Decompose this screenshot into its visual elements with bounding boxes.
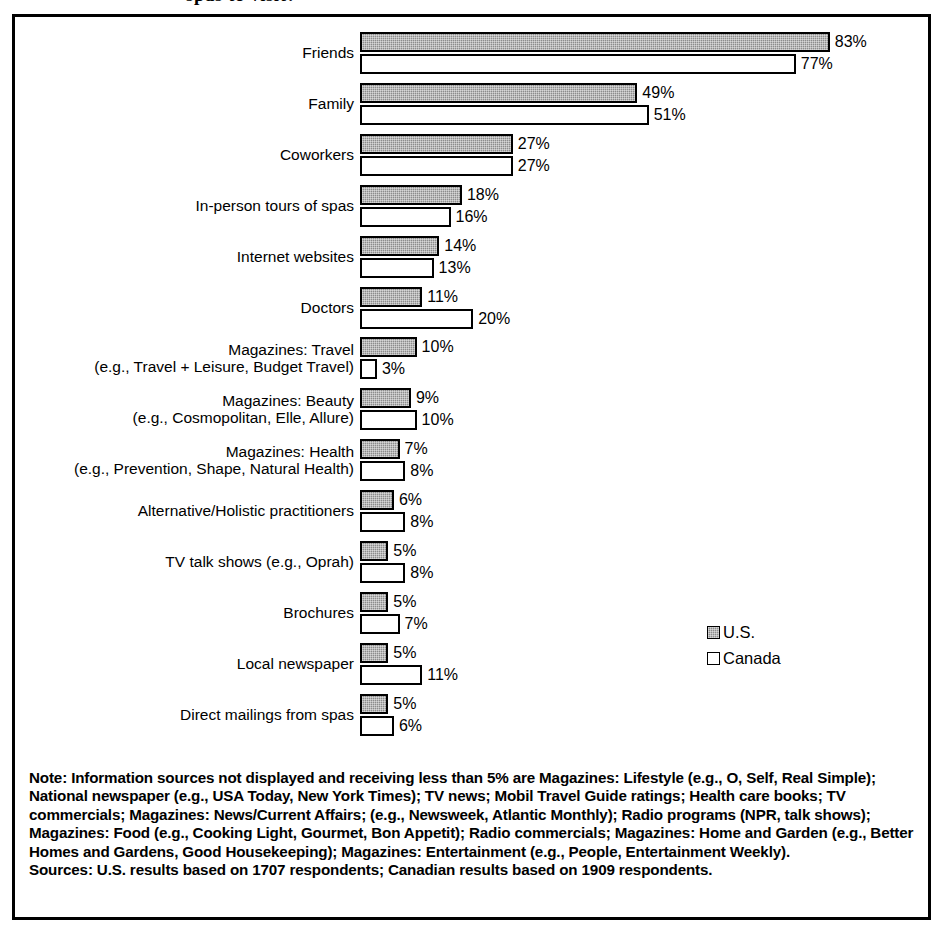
bar-pair: 9%10%	[360, 387, 454, 431]
bar-row-canada: 8%	[360, 460, 433, 482]
bar-group: Alternative/Holistic practitioners6%8%	[15, 489, 928, 533]
legend-item-us: U.S.	[707, 619, 781, 645]
bar-group: Magazines: Beauty (e.g., Cosmopolitan, E…	[15, 387, 928, 431]
bar-value-label: 6%	[399, 718, 422, 734]
bar-us	[360, 694, 388, 714]
bar-pair: 5%8%	[360, 540, 433, 584]
filled-hatched-square-icon	[707, 626, 720, 639]
bar-group: In-person tours of spas18%16%	[15, 184, 928, 228]
bar-us	[360, 32, 830, 52]
bar-pair: 27%27%	[360, 133, 550, 177]
bar-row-us: 5%	[360, 642, 458, 664]
bar-value-label: 8%	[410, 514, 433, 530]
category-label: In-person tours of spas	[0, 197, 354, 215]
bar-group: Internet websites14%13%	[15, 235, 928, 279]
bar-us	[360, 236, 439, 256]
cropped-title-strip: spas to visit?	[0, 0, 945, 13]
bar-row-us: 18%	[360, 184, 499, 206]
bar-row-canada: 20%	[360, 308, 510, 330]
bar-value-label: 10%	[422, 412, 454, 428]
bar-row-us: 5%	[360, 591, 428, 613]
category-label: Brochures	[0, 604, 354, 622]
bar-value-label: 20%	[478, 311, 510, 327]
bar-pair: 6%8%	[360, 489, 433, 533]
bar-value-label: 77%	[801, 56, 833, 72]
bar-row-us: 10%	[360, 336, 454, 358]
bar-row-canada: 3%	[360, 358, 454, 380]
bar-canada	[360, 156, 513, 176]
bar-row-canada: 8%	[360, 562, 433, 584]
category-label: Direct mailings from spas	[0, 706, 354, 724]
bar-group: Local newspaper5%11%	[15, 642, 928, 686]
chart-legend: U.S. Canada	[707, 619, 781, 671]
bar-canada	[360, 359, 377, 379]
bar-value-label: 8%	[410, 565, 433, 581]
bar-value-label: 7%	[405, 616, 428, 632]
bar-us	[360, 287, 422, 307]
bar-us	[360, 83, 637, 103]
category-label: Local newspaper	[0, 655, 354, 673]
bar-group: Friends83%77%	[15, 31, 928, 75]
bar-row-us: 27%	[360, 133, 550, 155]
bar-canada	[360, 207, 451, 227]
bar-pair: 10%3%	[360, 336, 454, 380]
bar-value-label: 18%	[467, 187, 499, 203]
bar-value-label: 27%	[518, 136, 550, 152]
bar-value-label: 16%	[456, 209, 488, 225]
bar-group: Family49%51%	[15, 82, 928, 126]
chart-plot-area: Friends83%77%Family49%51%Coworkers27%27%…	[15, 17, 928, 752]
bar-canada	[360, 461, 405, 481]
bar-pair: 49%51%	[360, 82, 686, 126]
category-label: Family	[0, 95, 354, 113]
category-label: Alternative/Holistic practitioners	[0, 502, 354, 520]
bar-group: Magazines: Health (e.g., Prevention, Sha…	[15, 438, 928, 482]
bar-canada	[360, 716, 394, 736]
bar-value-label: 9%	[416, 390, 439, 406]
bar-row-us: 9%	[360, 387, 454, 409]
bar-value-label: 11%	[427, 667, 458, 683]
bar-group: Magazines: Travel (e.g., Travel + Leisur…	[15, 336, 928, 380]
category-label: Coworkers	[0, 146, 354, 164]
bar-value-label: 83%	[835, 34, 867, 50]
bar-value-label: 5%	[393, 696, 416, 712]
bar-row-canada: 6%	[360, 715, 422, 737]
bar-row-canada: 51%	[360, 104, 686, 126]
bar-row-us: 7%	[360, 438, 433, 460]
bar-value-label: 3%	[382, 361, 405, 377]
bar-row-us: 5%	[360, 540, 433, 562]
bar-us	[360, 643, 388, 663]
bar-group: Direct mailings from spas5%6%	[15, 693, 928, 737]
bar-pair: 18%16%	[360, 184, 499, 228]
bar-canada	[360, 512, 405, 532]
bar-us	[360, 541, 388, 561]
category-label: Internet websites	[0, 248, 354, 266]
bar-row-us: 83%	[360, 31, 867, 53]
category-label: Magazines: Health (e.g., Prevention, Sha…	[0, 443, 354, 478]
legend-label-us: U.S.	[723, 619, 755, 645]
bar-us	[360, 592, 388, 612]
bar-us	[360, 337, 417, 357]
footnote-note: Note: Information sources not displayed …	[29, 769, 918, 861]
bar-pair: 5%6%	[360, 693, 422, 737]
bar-value-label: 5%	[393, 594, 416, 610]
bar-group: Brochures5%7%	[15, 591, 928, 635]
bar-value-label: 5%	[393, 645, 416, 661]
bar-row-canada: 27%	[360, 155, 550, 177]
category-label: Magazines: Beauty (e.g., Cosmopolitan, E…	[0, 392, 354, 427]
empty-square-icon	[707, 652, 720, 665]
bar-pair: 7%8%	[360, 438, 433, 482]
bar-canada	[360, 309, 473, 329]
bar-row-us: 6%	[360, 489, 433, 511]
footnotes-block: Note: Information sources not displayed …	[29, 769, 918, 879]
bar-canada	[360, 665, 422, 685]
bar-value-label: 7%	[405, 441, 428, 457]
legend-label-canada: Canada	[723, 645, 781, 671]
bar-us	[360, 185, 462, 205]
bar-row-us: 5%	[360, 693, 422, 715]
bar-row-canada: 16%	[360, 206, 499, 228]
bar-canada	[360, 54, 796, 74]
bar-value-label: 5%	[393, 543, 416, 559]
bar-value-label: 13%	[439, 260, 471, 276]
category-label: Magazines: Travel (e.g., Travel + Leisur…	[0, 341, 354, 376]
bar-canada	[360, 614, 400, 634]
